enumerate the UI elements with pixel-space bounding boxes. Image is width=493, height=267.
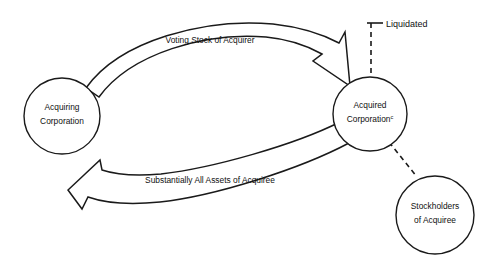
acquired-corporation-label-line2-text: Corporation: [347, 114, 391, 124]
stockholders-of-acquiree-label-line2: of Acquiree: [414, 215, 456, 225]
node-acquired-corporation[interactable]: Acquired Corporationc: [333, 77, 407, 151]
acquired-corporation-label-line1: Acquired: [353, 100, 386, 110]
acquired-corporation-superscript: c: [390, 114, 393, 120]
acquired-corporation-label-line2: Corporationc: [347, 114, 394, 125]
flow-voting-stock: Voting Stock of Acquirer: [86, 23, 350, 97]
acquisition-diagram: Voting Stock of Acquirer Substantially A…: [0, 0, 493, 267]
assets-label: Substantially All Assets of Acquiree: [145, 175, 275, 185]
voting-stock-label: Voting Stock of Acquirer: [166, 35, 255, 45]
diagram-canvas: Voting Stock of Acquirer Substantially A…: [0, 0, 493, 267]
stockholders-of-acquiree-label-line1: Stockholders: [411, 201, 459, 211]
acquired-to-stockholders-link: [389, 142, 417, 177]
liquidated-annotation: Liquidated: [367, 19, 428, 79]
liquidated-label: Liquidated: [386, 19, 428, 29]
stockholders-dashed-line: [389, 142, 417, 177]
flow-assets: Substantially All Assets of Acquiree: [68, 122, 349, 209]
node-stockholders-of-acquiree[interactable]: Stockholders of Acquiree: [396, 176, 474, 254]
acquiring-corporation-label-line1: Acquiring: [45, 102, 80, 112]
acquiring-corporation-label-line2: Corporation: [40, 116, 84, 126]
node-acquiring-corporation[interactable]: Acquiring Corporation: [24, 78, 100, 154]
assets-band: [68, 122, 349, 209]
